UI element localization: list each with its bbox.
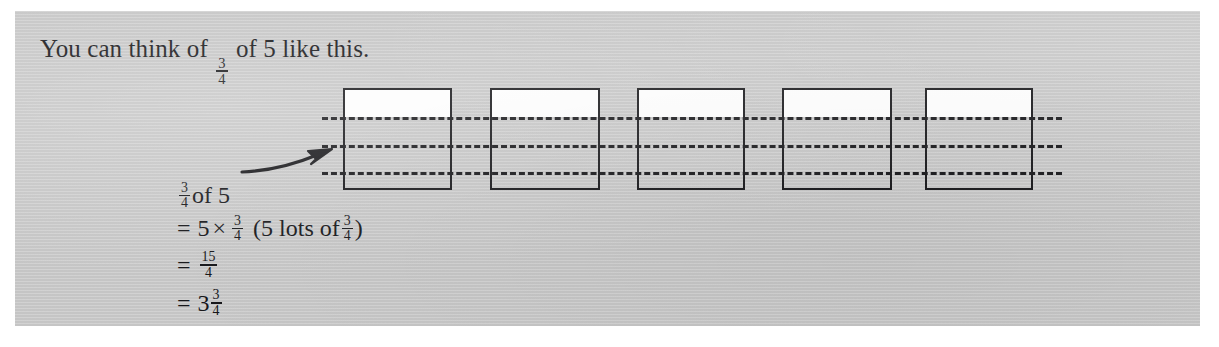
heading-suffix: of 5 like this. — [230, 35, 370, 62]
page-title: You can think of 34 of 5 like this. — [40, 35, 369, 87]
line2-times-symbol: × — [213, 215, 227, 242]
square-1-white-quarter — [345, 89, 450, 117]
square-1 — [343, 88, 452, 190]
line3-equals: = — [177, 252, 191, 279]
square-4 — [782, 88, 892, 190]
label-fraction: 34 — [179, 181, 190, 211]
line4-fraction-numerator: 3 — [211, 288, 222, 302]
page-root: You can think of 34 of 5 like this. — [0, 0, 1219, 347]
working-out: 34 of 5 =5×34(5 lots of 34) =154 =334 — [177, 179, 363, 321]
label-fraction-numerator: 3 — [179, 181, 190, 195]
line2-paren-fraction-numerator: 3 — [342, 214, 353, 228]
square-2-white-quarter — [492, 89, 598, 117]
line2-paren-close: ) — [355, 215, 363, 242]
line2-paren-fraction-denominator: 4 — [342, 229, 353, 243]
heading-fraction-numerator: 3 — [216, 56, 227, 71]
heading-fraction-denominator: 4 — [216, 72, 227, 87]
square-3 — [637, 88, 745, 190]
heading-fraction: 34 — [216, 56, 227, 87]
line2-paren-open: (5 lots of — [253, 215, 340, 242]
label-fraction-denominator: 4 — [179, 196, 190, 210]
heading-prefix: You can think of — [40, 35, 214, 62]
square-4-white-quarter — [784, 89, 891, 117]
working-line-4: =334 — [177, 285, 363, 321]
line3-fraction: 154 — [200, 250, 218, 280]
dashed-line-2 — [322, 145, 1062, 148]
line2-paren-fraction: 34 — [342, 214, 353, 244]
square-2 — [490, 88, 600, 190]
square-5-white-quarter — [927, 89, 1032, 117]
working-line-3: =154 — [177, 245, 363, 285]
line3-fraction-numerator: 15 — [200, 250, 218, 264]
line4-fraction-denominator: 4 — [211, 304, 222, 318]
line4-whole-number: 3 — [198, 290, 210, 317]
line2-equals: = — [177, 215, 191, 242]
working-line-2: =5×34(5 lots of 34) — [177, 212, 363, 245]
working-line-label: 34 of 5 — [177, 179, 363, 212]
dashed-line-1 — [322, 117, 1062, 120]
line2-fraction: 34 — [232, 214, 243, 244]
line3-fraction-denominator: 4 — [203, 266, 214, 280]
textbook-panel: You can think of 34 of 5 like this. — [15, 11, 1200, 326]
line2-fraction-denominator: 4 — [232, 229, 243, 243]
line4-equals: = — [177, 290, 191, 317]
line2-multiplicand: 5 — [198, 215, 210, 242]
line2-fraction-numerator: 3 — [232, 214, 243, 228]
line4-fraction: 34 — [211, 288, 222, 318]
square-5 — [925, 88, 1033, 190]
square-3-white-quarter — [639, 89, 744, 117]
label-text: of 5 — [192, 182, 230, 209]
dashed-line-3 — [322, 172, 1062, 175]
